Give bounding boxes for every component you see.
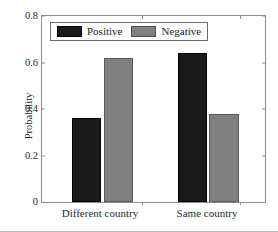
legend-swatch-negative-icon — [131, 26, 156, 37]
x-tick-mark-different-country — [142, 202, 143, 205]
legend-label-negative: Negative — [161, 26, 201, 37]
y-tick-mark-0.8 — [42, 16, 45, 17]
x-tick-mark-top-same-country — [240, 16, 241, 19]
y-tick-mark-0.6 — [42, 62, 45, 63]
bar-negative-different-country — [104, 58, 134, 202]
bar-positive-same-country — [178, 53, 207, 202]
y-tick-mark-0.4 — [42, 109, 45, 110]
bar-negative-same-country — [209, 114, 239, 202]
y-tick-label-0.2: 0.2 — [25, 150, 38, 161]
y-tick-mark-0.2 — [42, 155, 45, 156]
y-tick-label-0.8: 0.8 — [25, 11, 38, 22]
plot-area: 0.8 0.6 0.4 0.2 0 Different country Same… — [41, 15, 266, 203]
x-tick-label-different-country: Different country — [62, 208, 138, 219]
legend-entry-positive: Positive — [57, 26, 122, 37]
legend-entry-negative: Negative — [131, 26, 201, 37]
y-tick-mark-right-0.2 — [262, 155, 265, 156]
y-tick-label-0: 0 — [33, 197, 38, 208]
y-axis-title: Probability — [24, 93, 35, 140]
legend-swatch-positive-icon — [57, 26, 82, 37]
y-tick-mark-right-0.4 — [262, 109, 265, 110]
x-tick-mark-top-different-country — [142, 16, 143, 19]
figure-bottom-rule — [0, 231, 278, 232]
chart-legend: Positive Negative — [50, 22, 208, 41]
bar-positive-different-country — [72, 118, 101, 202]
legend-label-positive: Positive — [87, 26, 122, 37]
x-tick-mark-same-country — [240, 202, 241, 205]
y-tick-mark-right-0.8 — [262, 16, 265, 17]
y-tick-mark-right-0.6 — [262, 62, 265, 63]
y-tick-label-0.6: 0.6 — [25, 57, 38, 68]
bar-chart-figure: Probability 0.8 0.6 0.4 0.2 0 Different … — [0, 0, 278, 232]
y-tick-label-0.4: 0.4 — [25, 104, 38, 115]
x-tick-label-same-country: Same country — [177, 208, 238, 219]
